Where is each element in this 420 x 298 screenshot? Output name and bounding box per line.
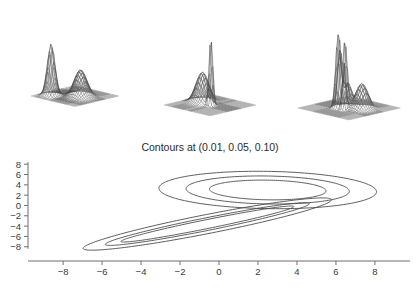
x-axis-tick-label: −2: [175, 266, 186, 277]
surface-plot-left: [8, 0, 143, 145]
x-axis-tick-label: −4: [136, 266, 147, 277]
x-axis-tick-label: −8: [58, 266, 69, 277]
mesh-gridline: [305, 106, 356, 118]
contour-curves: [83, 171, 376, 250]
x-axis-tick-label: 6: [333, 266, 338, 277]
contour-curve: [121, 206, 294, 242]
mesh-gridline: [185, 45, 231, 111]
contour-curve: [159, 171, 377, 208]
surface-plot-middle: [143, 0, 278, 145]
x-axis-tick-label: −6: [97, 266, 108, 277]
contour-plot: Contours at (0.01, 0.05, 0.10) 86420−2−4…: [0, 134, 420, 298]
surface-plot-row: [0, 0, 420, 145]
y-axis: 86420−2−4−6−8: [10, 159, 28, 253]
contour-curve: [83, 198, 331, 250]
x-axis: −8−6−4−202468: [28, 261, 410, 277]
x-axis-tick-label: 4: [294, 266, 299, 277]
y-axis-tick-label: −8: [10, 241, 21, 252]
x-axis-tick-label: 2: [255, 266, 260, 277]
contour-curve: [209, 180, 326, 200]
x-axis-tick-label: 0: [216, 266, 221, 277]
contour-plot-title: Contours at (0.01, 0.05, 0.10): [141, 141, 278, 153]
surface-plot-right: [278, 0, 420, 145]
x-axis-tick-label: 8: [372, 266, 377, 277]
figure-root: Contours at (0.01, 0.05, 0.10) 86420−2−4…: [0, 0, 420, 298]
